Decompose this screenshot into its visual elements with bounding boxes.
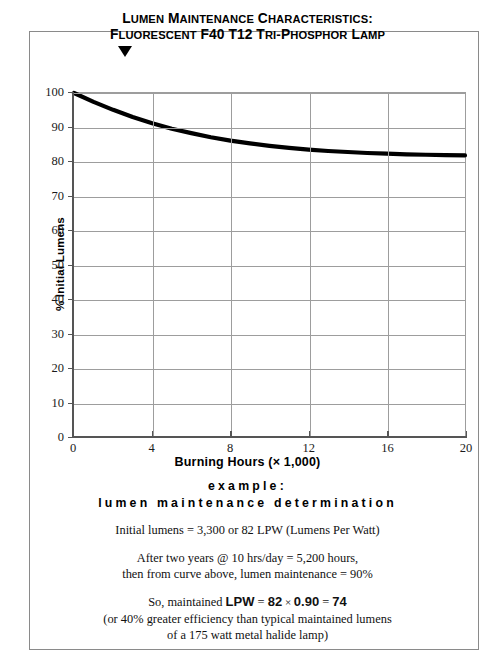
x-tick-mark <box>152 431 153 437</box>
example-line-initial-lumens: Initial lumens = 3,300 or 82 LPW (Lumens… <box>0 522 495 538</box>
gridline-vertical <box>310 93 311 436</box>
result-74: 74 <box>332 594 346 609</box>
x-tick-mark <box>466 431 467 437</box>
example-text-block: example: lumen maintenance determination… <box>0 478 495 643</box>
y-tick-label: 10 <box>30 395 64 410</box>
x-tick-label: 12 <box>289 441 329 456</box>
gridline-horizontal <box>74 162 465 163</box>
y-tick-mark <box>68 265 73 266</box>
y-tick-label: 90 <box>30 119 64 134</box>
y-tick-mark <box>68 299 73 300</box>
x-tick-label: 0 <box>53 441 93 456</box>
y-tick-label: 60 <box>30 223 64 238</box>
x-axis-spine <box>72 436 467 438</box>
gridline-vertical <box>388 93 389 436</box>
example-line-after-two-years: After two years @ 10 hrs/day = 5,200 hou… <box>0 550 495 566</box>
maintained-prefix: So, maintained <box>148 595 225 609</box>
gridline-vertical <box>153 93 154 436</box>
y-tick-label: 70 <box>30 188 64 203</box>
gridline-horizontal <box>74 197 465 198</box>
equals-2: = <box>319 595 332 609</box>
gridline-horizontal <box>74 231 465 232</box>
y-tick-label: 20 <box>30 361 64 376</box>
y-tick-label: 40 <box>30 292 64 307</box>
example-line-efficiency-note-2: of a 175 watt metal halide lamp) <box>0 627 495 643</box>
y-tick-mark <box>68 334 73 335</box>
example-line-from-curve: then from curve above, lumen maintenance… <box>0 566 495 582</box>
x-axis-label: Burning Hours (× 1,000) <box>0 455 495 469</box>
chart-title-line-2-text: FLUORESCENT F40 T12 TRI-PHOSPHOR LAMP <box>0 28 495 43</box>
y-tick-mark <box>68 92 73 93</box>
example-line-maintained-lpw: So, maintained LPW = 82 × 0.90 = 74 <box>0 593 495 610</box>
y-tick-mark <box>68 161 73 162</box>
x-tick-label: 20 <box>446 441 486 456</box>
x-tick-mark <box>387 431 388 437</box>
gridline-horizontal <box>74 335 465 336</box>
gridline-horizontal <box>74 369 465 370</box>
gridline-horizontal <box>74 266 465 267</box>
y-tick-mark <box>68 127 73 128</box>
example-heading-1: example: <box>0 478 495 495</box>
gridline-horizontal <box>74 93 465 94</box>
chart-title-block: LUMEN MAINTENANCE CHARACTERISTICS: FLUOR… <box>0 9 495 57</box>
example-line-efficiency-note-1: (or 40% greater efficiency than typical … <box>0 611 495 627</box>
chart-title-line-2: FLUORESCENT F40 T12 TRI-PHOSPHOR LAMP <box>0 28 495 43</box>
x-tick-label: 8 <box>210 441 250 456</box>
x-tick-label: 16 <box>367 441 407 456</box>
y-tick-mark <box>68 437 73 438</box>
lpw-value-82: 82 <box>268 594 282 609</box>
lumen-maintenance-curve <box>74 93 465 436</box>
y-tick-label: 30 <box>30 326 64 341</box>
x-tick-mark <box>73 431 74 437</box>
chart-title-line-1: LUMEN MAINTENANCE CHARACTERISTICS: <box>0 9 495 27</box>
example-heading-2: lumen maintenance determination <box>0 495 495 512</box>
y-tick-mark <box>68 230 73 231</box>
plot-area <box>73 92 466 437</box>
x-tick-mark <box>309 431 310 437</box>
gridline-horizontal <box>74 404 465 405</box>
multiply-sign: × <box>282 596 294 608</box>
gridline-horizontal <box>74 300 465 301</box>
y-tick-mark <box>68 368 73 369</box>
y-tick-label: 50 <box>30 257 64 272</box>
x-tick-label: 4 <box>132 441 172 456</box>
equals-1: = <box>254 595 267 609</box>
y-tick-mark <box>68 403 73 404</box>
x-tick-mark <box>230 431 231 437</box>
y-tick-mark <box>68 196 73 197</box>
gridline-horizontal <box>74 128 465 129</box>
y-tick-label: 100 <box>30 85 64 100</box>
y-tick-label: 80 <box>30 154 64 169</box>
lpw-term: LPW <box>226 594 255 609</box>
chart-area: % Initial Lumens Burning Hours (× 1,000)… <box>0 0 495 480</box>
maintenance-factor-090: 0.90 <box>294 594 319 609</box>
down-triangle-marker-icon <box>118 46 132 57</box>
chart-title-line-1-text: LUMEN MAINTENANCE CHARACTERISTICS: <box>119 12 376 27</box>
gridline-vertical <box>231 93 232 436</box>
